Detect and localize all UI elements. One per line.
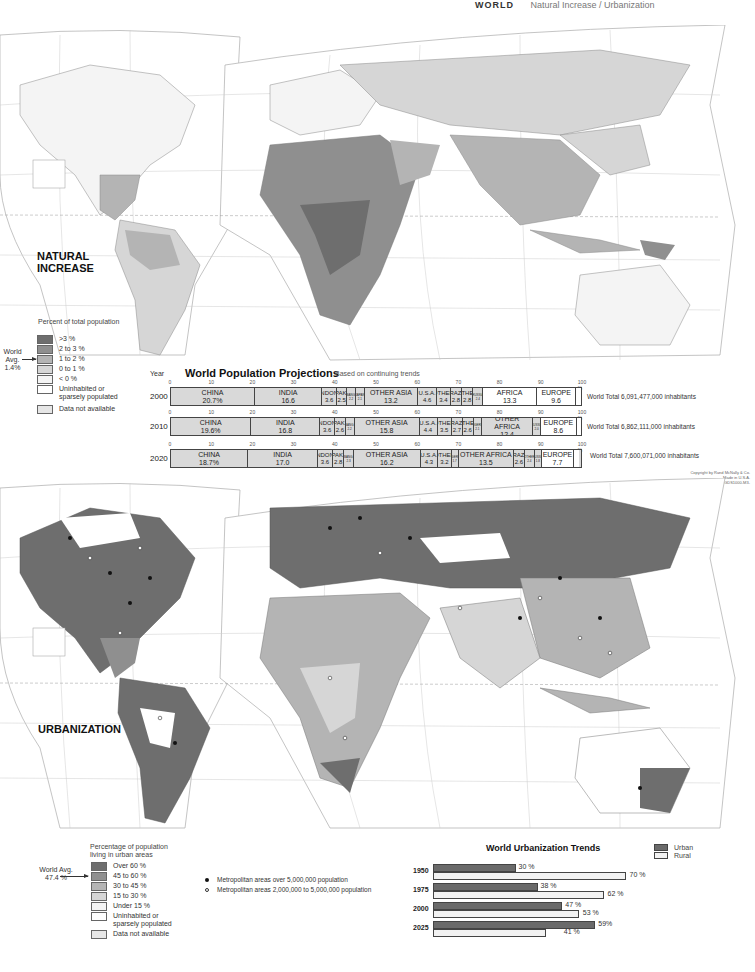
urban-value: 38 % (541, 882, 557, 889)
legend-swatch (37, 365, 53, 374)
legend-item: Data not available (91, 930, 169, 939)
tick-label: 30 (291, 441, 297, 447)
natural-increase-map (0, 25, 755, 365)
tick-label: 30 (291, 379, 297, 385)
projection-year: 2010 (150, 422, 168, 431)
legend-item: Uninhabited or sparsely populated (91, 912, 181, 928)
segment-value: 3.6 (321, 459, 329, 466)
legend-label: < 0 % (59, 375, 77, 383)
segment-name: INDON. (322, 390, 337, 397)
projections-subtitle: Based on continuing trends (335, 370, 420, 377)
projection-segment: NIGERIA1.7 (452, 450, 459, 467)
natural-increase-title: NATURAL INCREASE (37, 250, 94, 274)
segment-value: 16.8 (279, 427, 293, 435)
segment-value: 15.8 (380, 427, 394, 435)
urbanization-map (0, 478, 755, 833)
legend-item: Uninhabited or sparsely populated (37, 385, 127, 401)
segment-value: 19.6% (201, 427, 221, 435)
projection-ticks: 0102030405060708090100 % (170, 441, 582, 448)
tick-label: 0 (169, 441, 172, 447)
projection-bar: CHINA19.6%INDIA16.8INDON.3.6PAK.2.6BANG.… (170, 417, 582, 436)
tick-label: 40 (332, 441, 338, 447)
segment-name: PAK. (337, 390, 347, 397)
projections-title: World Population Projections (185, 367, 339, 379)
world-avg-arrow-icon (22, 359, 36, 360)
legend-label: 15 to 30 % (113, 892, 146, 900)
metro-medium-legend: Metropolitan areas 2,000,000 to 5,000,00… (205, 886, 371, 893)
filled-dot-icon (205, 878, 209, 882)
legend-title-line: Percentage of population (90, 843, 168, 851)
projection-segment: INDIA16.6 (255, 388, 322, 405)
urban-bar (433, 864, 516, 872)
segment-value: 2.1 (358, 397, 362, 401)
segment-value: 3.6 (325, 397, 333, 404)
legend-item: 1 to 2 % (37, 355, 85, 364)
projection-segment: JAPAN2.1 (356, 388, 365, 405)
open-dot-icon (205, 888, 209, 892)
tick-label: 10 (208, 441, 214, 447)
segment-name: BRAZIL (514, 452, 525, 459)
tick-label: 0 (169, 379, 172, 385)
projection-ticks: 0102030405060708090100 % (170, 409, 582, 416)
projection-segment: EUROPE9.6 (537, 388, 576, 405)
natural-increase-legend-title: Percent of total population (38, 318, 119, 326)
legend-item: < 0 % (37, 375, 77, 384)
legend-item: 0 to 1 % (37, 365, 85, 374)
world-avg-value: 1.4% (0, 364, 25, 372)
rural-bar (433, 929, 546, 937)
tick-label: 90 (538, 379, 544, 385)
tick-label: 50 (373, 441, 379, 447)
segment-name: PAK. (333, 452, 345, 459)
segment-name: INDIA (279, 389, 298, 397)
projection-segment: RUSSIA1.8 (535, 450, 542, 467)
trends-legend-rural: Rural (654, 852, 691, 859)
projection-segment: RUSSIA2.0 (533, 418, 541, 435)
header-title: WORLD (475, 0, 514, 10)
tick-label: 60 (414, 441, 420, 447)
urban-value: 47 % (565, 901, 581, 908)
projection-world-total: World Total 7,600,071,000 inhabitants (587, 452, 702, 459)
segment-value: 16.6 (281, 397, 295, 405)
legend-item: 15 to 30 % (91, 892, 146, 901)
projection-segment: NIGERIA2.1 (474, 418, 483, 435)
segment-value: 2.8 (452, 397, 460, 404)
legend-swatch (91, 930, 107, 939)
projection-segment: EUROPE8.6 (541, 418, 576, 435)
segment-name: PAK. (335, 420, 346, 427)
projection-segment: PAK.2.6 (335, 418, 346, 435)
projection-segment: CHINA19.6% (171, 418, 251, 435)
segment-value: 20.7% (203, 397, 223, 405)
rural-value: 41 % (564, 928, 580, 935)
segment-name: EUROPE (541, 389, 571, 397)
projection-segment: INDON.3.6 (322, 388, 337, 405)
legend-swatch (37, 355, 53, 364)
rural-bar (433, 891, 604, 899)
tick-label: 60 (414, 379, 420, 385)
projection-segment: OTHER ASIA13.2 (365, 388, 419, 405)
legend-swatch (91, 882, 107, 891)
segment-value: 2.3 (347, 459, 351, 463)
title-line-1: NATURAL (37, 250, 94, 262)
projection-segment: INDON.3.6 (320, 418, 335, 435)
urban-swatch (654, 844, 668, 851)
tick-label: 80 (497, 379, 503, 385)
projection-segment: CHINA18.7% (171, 450, 248, 467)
projection-segment: INDIA17.0 (248, 450, 318, 467)
segment-value: 17.0 (276, 459, 290, 467)
legend-title-line: living in urban areas (90, 851, 168, 859)
segment-name: INDON. (320, 420, 335, 427)
tick-label: 90 (538, 409, 544, 415)
metro-large-legend: Metropolitan areas over 5,000,000 popula… (205, 876, 348, 883)
projection-segment: U.S.A.4.3 (421, 450, 439, 467)
tick-label: 0 (169, 409, 172, 415)
segment-value: 13.5 (479, 459, 493, 467)
projection-segment: INDON.3.6 (318, 450, 333, 467)
segment-name: BRAZIL (452, 420, 463, 427)
tick-label: 90 (538, 441, 544, 447)
legend-item: 2 to 3 % (37, 345, 85, 354)
projection-segment: PAK.2.8 (333, 450, 345, 467)
tick-label: 40 (332, 409, 338, 415)
tick-label: 20 (250, 379, 256, 385)
tick-label: 50 (373, 379, 379, 385)
segment-name: OTHER ASIA (366, 451, 408, 459)
